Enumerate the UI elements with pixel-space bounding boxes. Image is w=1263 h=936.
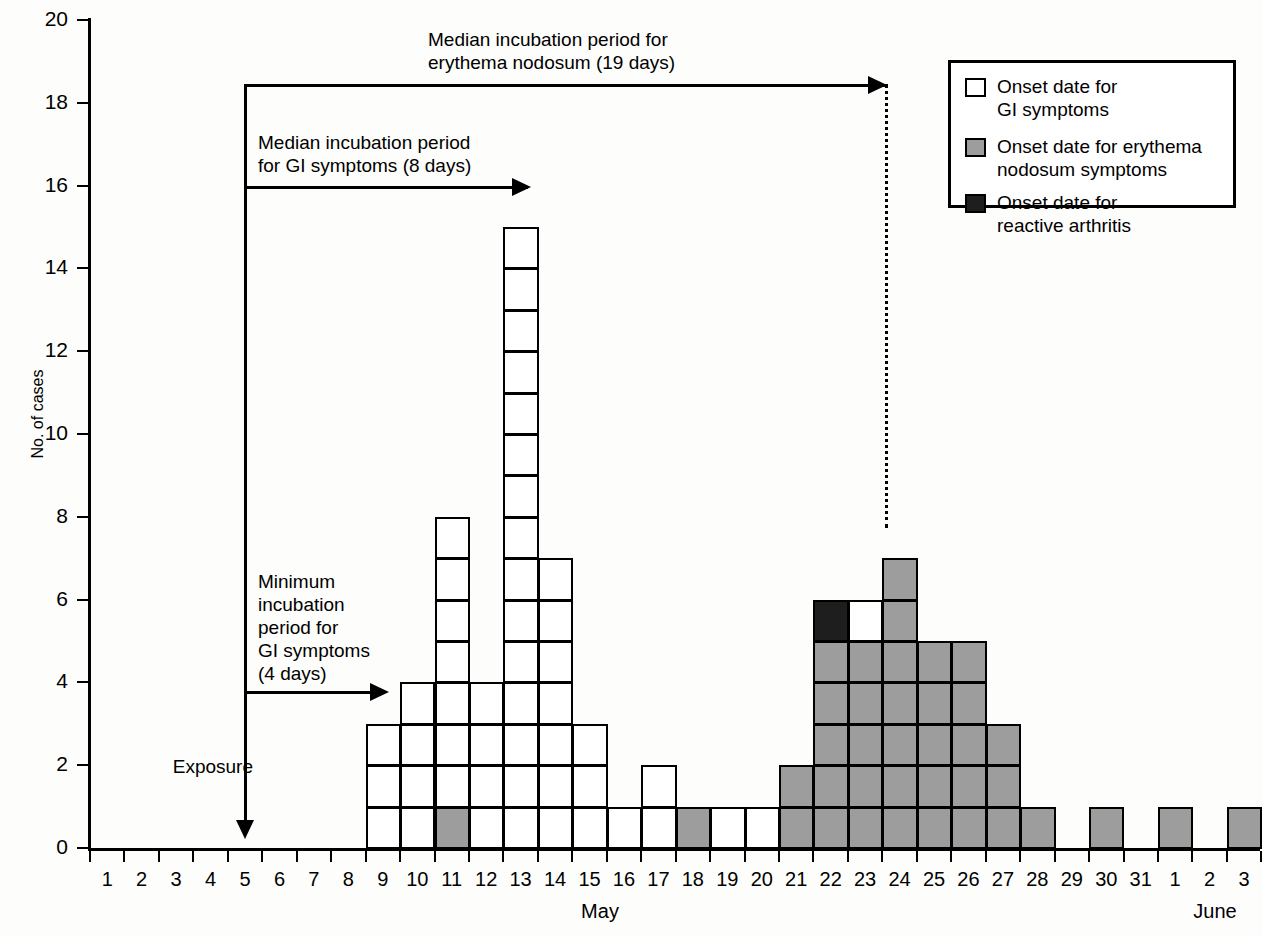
case-cell xyxy=(400,807,435,849)
x-axis-tick xyxy=(881,851,883,862)
case-cell xyxy=(710,807,745,849)
case-cell xyxy=(503,600,538,642)
case-cell xyxy=(676,807,711,849)
case-cell xyxy=(503,310,538,352)
exposure-line xyxy=(244,84,247,826)
exposure-arrow-head xyxy=(236,820,254,839)
case-cell xyxy=(1158,807,1193,849)
case-cell xyxy=(951,641,986,683)
case-cell xyxy=(813,807,848,849)
case-cell xyxy=(503,641,538,683)
x-axis-tick xyxy=(812,851,814,862)
median-gi-annotation-text: Median incubation period for GI symptoms… xyxy=(258,131,558,177)
legend-swatch-gi-icon xyxy=(965,78,986,97)
case-cell xyxy=(641,807,676,849)
x-axis-tick xyxy=(985,851,987,862)
y-axis-tick-label: 0 xyxy=(34,835,68,859)
case-cell xyxy=(538,600,573,642)
x-axis-tick xyxy=(502,851,504,862)
case-cell xyxy=(503,227,538,269)
case-cell xyxy=(882,724,917,766)
legend-item-gi[interactable]: Onset date for GI symptoms xyxy=(965,75,1225,121)
case-cell xyxy=(813,765,848,807)
y-axis-tick-label: 10 xyxy=(34,421,68,445)
x-axis-tick xyxy=(123,851,125,862)
case-cell xyxy=(1089,807,1124,849)
y-axis-tick-label: 18 xyxy=(34,90,68,114)
x-axis-tick xyxy=(1123,851,1125,862)
y-axis-tick xyxy=(77,19,88,21)
x-axis-tick xyxy=(365,851,367,862)
case-cell xyxy=(503,765,538,807)
case-cell xyxy=(882,558,917,600)
case-cell xyxy=(848,765,883,807)
month-label-may: May xyxy=(560,900,640,923)
x-axis-tick xyxy=(675,851,677,862)
case-cell xyxy=(503,807,538,849)
y-axis-tick xyxy=(77,102,88,104)
y-axis-line xyxy=(88,18,91,850)
legend-item-ra[interactable]: Onset date for reactive arthritis xyxy=(965,191,1225,237)
x-axis-tick xyxy=(640,851,642,862)
case-cell xyxy=(366,807,401,849)
min-gi-arrow-head xyxy=(370,683,389,701)
x-axis-tick xyxy=(950,851,952,862)
case-cell xyxy=(848,807,883,849)
case-cell xyxy=(917,682,952,724)
y-axis-tick xyxy=(77,516,88,518)
y-axis-tick xyxy=(77,185,88,187)
case-cell xyxy=(400,682,435,724)
case-cell xyxy=(400,724,435,766)
y-axis-tick-label: 2 xyxy=(34,752,68,776)
case-cell xyxy=(435,765,470,807)
case-cell xyxy=(435,724,470,766)
exposure-label: Exposure xyxy=(143,755,253,778)
x-axis-tick xyxy=(1088,851,1090,862)
case-cell xyxy=(882,807,917,849)
x-axis-tick xyxy=(1191,851,1193,862)
case-cell xyxy=(503,558,538,600)
case-cell xyxy=(1020,807,1055,849)
x-axis-tick xyxy=(192,851,194,862)
x-axis-tick xyxy=(158,851,160,862)
case-cell xyxy=(538,807,573,849)
x-axis-tick xyxy=(468,851,470,862)
case-cell xyxy=(986,807,1021,849)
median-en-dotted-line xyxy=(885,84,888,528)
case-cell xyxy=(951,682,986,724)
case-cell xyxy=(366,724,401,766)
case-cell xyxy=(951,807,986,849)
y-axis-tick-label: 8 xyxy=(34,504,68,528)
case-cell xyxy=(435,517,470,559)
case-cell xyxy=(848,724,883,766)
case-cell xyxy=(917,765,952,807)
case-cell xyxy=(813,724,848,766)
case-cell xyxy=(882,641,917,683)
y-axis-tick xyxy=(77,847,88,849)
case-cell xyxy=(641,765,676,807)
case-cell xyxy=(503,351,538,393)
legend-box: Onset date for GI symptomsOnset date for… xyxy=(948,60,1236,208)
x-axis-tick xyxy=(847,851,849,862)
x-axis-tick xyxy=(537,851,539,862)
case-cell xyxy=(503,517,538,559)
y-axis-tick-label: 12 xyxy=(34,338,68,362)
legend-item-en[interactable]: Onset date for erythema nodosum symptoms xyxy=(965,135,1225,181)
legend-swatch-en-icon xyxy=(965,138,986,157)
case-cell xyxy=(503,268,538,310)
y-axis-tick xyxy=(77,681,88,683)
x-axis-tick xyxy=(744,851,746,862)
case-cell xyxy=(538,558,573,600)
case-cell xyxy=(503,682,538,724)
case-cell xyxy=(572,807,607,849)
case-cell xyxy=(813,641,848,683)
y-axis-tick xyxy=(77,433,88,435)
y-axis-tick-label: 14 xyxy=(34,255,68,279)
x-axis-tick xyxy=(709,851,711,862)
legend-label: Onset date for erythema nodosum symptoms xyxy=(997,135,1202,181)
case-cell xyxy=(503,393,538,435)
y-axis-tick xyxy=(77,267,88,269)
legend-swatch-ra-icon xyxy=(965,194,986,213)
case-cell xyxy=(882,600,917,642)
x-axis-tick xyxy=(227,851,229,862)
